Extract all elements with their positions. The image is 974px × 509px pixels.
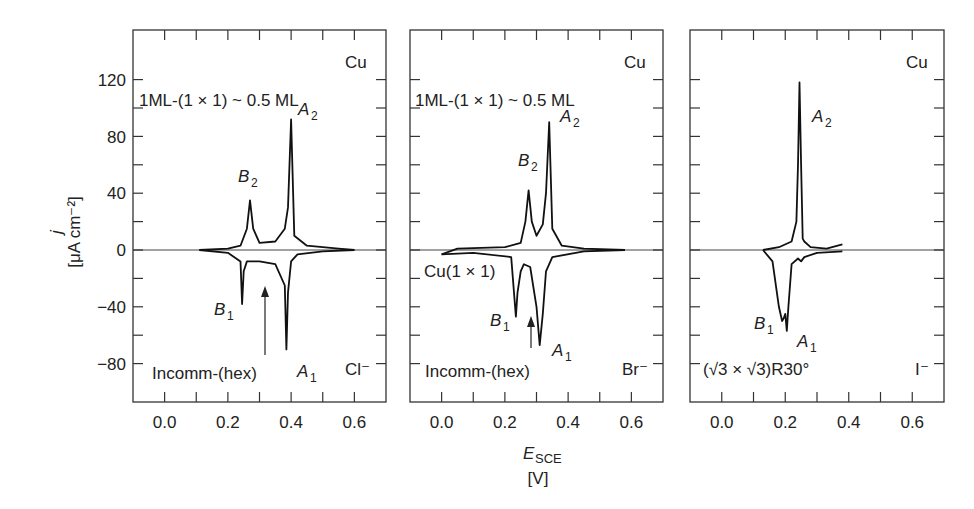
cv-curve-cathodic [763, 250, 842, 331]
panel-iodide-annotations: Cu A 2 B 1 A 1 (√3 × √3)R30° I⁻ [703, 53, 929, 379]
y-tick-label: 0 [117, 241, 126, 260]
peak-label-B1: B 1 [490, 311, 510, 334]
structure-label: Incomm-(hex) [425, 362, 530, 381]
y-tick-label: 120 [98, 71, 126, 90]
metal-label: Cu [345, 53, 367, 72]
svg-text:2: 2 [573, 116, 580, 130]
arrow-icon [527, 316, 535, 348]
y-tick-label: 80 [107, 128, 126, 147]
svg-text:B: B [518, 151, 529, 170]
x-tick-label: 0.6 [900, 413, 924, 432]
peak-label-B2: B 2 [518, 151, 538, 174]
y-tick-label: −40 [97, 298, 126, 317]
panel-chloride-annotations: 1ML-(1 × 1) ~ 0.5 ML Cu B 2 A 2 B 1 A 1 … [139, 53, 370, 385]
svg-text:B: B [490, 311, 501, 330]
svg-text:2: 2 [825, 116, 832, 130]
x-tick-label: 0.0 [710, 413, 734, 432]
svg-text:1: 1 [565, 350, 572, 364]
svg-text:A: A [559, 107, 571, 126]
peak-label-B1: B 1 [214, 300, 234, 323]
peak-label-B1: B 1 [754, 314, 774, 337]
x-tick-label: 0.6 [620, 413, 644, 432]
x-tick-label: 0.0 [153, 413, 177, 432]
svg-text:A: A [551, 341, 563, 360]
electrolyte-label: I⁻ [915, 360, 929, 379]
svg-text:2: 2 [251, 176, 258, 190]
svg-text:A: A [796, 332, 808, 351]
x-tick-label: 0.0 [430, 413, 454, 432]
y-axis-units: [μA cm⁻²] [65, 196, 84, 268]
metal-label: Cu [906, 53, 928, 72]
svg-text:2: 2 [531, 160, 538, 174]
x-tick-label: 0.2 [493, 413, 517, 432]
y-tick-label: 40 [107, 184, 126, 203]
x-tick-label: 0.4 [279, 413, 303, 432]
electrolyte-label: Br⁻ [622, 360, 648, 379]
x-tick-label: 0.6 [343, 413, 367, 432]
svg-text:1: 1 [503, 320, 510, 334]
y-tick-label: −80 [97, 355, 126, 374]
plot-frame [690, 30, 944, 402]
svg-text:1: 1 [810, 341, 817, 355]
coverage-label: 1ML-(1 × 1) ~ 0.5 ML [139, 91, 299, 110]
cv-curve-anodic [199, 119, 354, 250]
x-axis-symbol: E [523, 444, 535, 463]
x-tick-label: 0.2 [216, 413, 240, 432]
svg-text:B: B [754, 314, 765, 333]
y-axis-symbol: j [47, 229, 66, 236]
y-axis-label: j [μA cm⁻²] [47, 196, 84, 268]
x-tick-label: 0.4 [837, 413, 861, 432]
peak-label-A1: A 1 [296, 362, 317, 385]
x-axis-units: [V] [528, 469, 549, 488]
svg-text:B: B [238, 167, 249, 186]
peak-label-A1: A 1 [796, 332, 817, 355]
svg-text:1: 1 [767, 323, 774, 337]
metal-label: Cu [624, 53, 646, 72]
figure: j [μA cm⁻²] 120 80 40 0 −40 −80 0.00.20.… [0, 0, 974, 509]
electrolyte-label: Cl⁻ [345, 360, 370, 379]
cv-curve-anodic [763, 82, 842, 250]
svg-text:A: A [297, 100, 309, 119]
peak-label-A1: A 1 [551, 341, 572, 364]
adlayer-label: Cu(1 × 1) [424, 262, 495, 281]
plot-frame [133, 30, 386, 402]
x-tick-label: 0.4 [556, 413, 580, 432]
svg-text:1: 1 [227, 309, 234, 323]
svg-text:A: A [296, 362, 308, 381]
coverage-label: 1ML-(1 × 1) ~ 0.5 ML [415, 91, 575, 110]
peak-label-A2: A 2 [811, 107, 832, 130]
peak-label-A2: A 2 [559, 107, 580, 130]
cv-curve-anodic [442, 122, 625, 254]
plot-frame [410, 30, 663, 402]
x-axis-label: E SCE [V] [523, 444, 562, 488]
svg-text:B: B [214, 300, 225, 319]
peak-label-B2: B 2 [238, 167, 258, 190]
structure-label: Incomm-(hex) [152, 364, 257, 383]
svg-text:A: A [811, 107, 823, 126]
svg-text:2: 2 [311, 109, 318, 123]
x-axis-subscript: SCE [535, 451, 562, 466]
peak-label-A2: A 2 [297, 100, 318, 123]
svg-text:1: 1 [310, 371, 317, 385]
y-tick-labels: 120 80 40 0 −40 −80 [97, 71, 126, 374]
x-tick-label: 0.2 [773, 413, 797, 432]
structure-label: (√3 × √3)R30° [703, 360, 809, 379]
arrow-icon [261, 286, 269, 355]
